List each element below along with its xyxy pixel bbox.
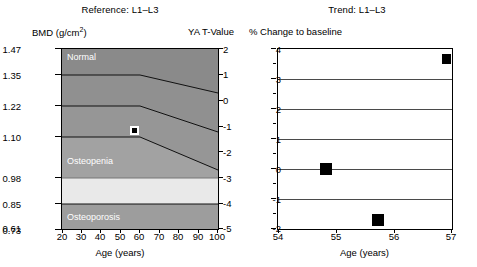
ytick-left-7: 0.61 bbox=[3, 223, 22, 234]
gridline-0 bbox=[278, 169, 452, 170]
trend-ytick-2: 2 bbox=[276, 104, 281, 115]
ytick-left-4: 0.98 bbox=[3, 173, 22, 184]
trend-ytick-4: 0 bbox=[276, 164, 281, 175]
trend-ytick-0: 4 bbox=[276, 44, 281, 55]
trend-y-axis-label: % Change to baseline bbox=[249, 26, 342, 37]
ytick-right-3: -1 bbox=[223, 121, 231, 132]
trend-ytick-3: 1 bbox=[276, 134, 281, 145]
trend-plot-area bbox=[277, 48, 453, 230]
ytick-right-1: 1 bbox=[223, 69, 228, 80]
trend-ytick-1: 3 bbox=[276, 74, 281, 85]
reference-data-point-marker bbox=[130, 126, 139, 135]
trend-data-point-2 bbox=[372, 214, 384, 226]
trend-chart-panel: Trend: L1–L3 % Change to baseline 4 3 2 … bbox=[237, 0, 477, 267]
xtick-7: 90 bbox=[193, 231, 204, 242]
zone-label-normal: Normal bbox=[67, 52, 96, 62]
trend-xtick-1: 55 bbox=[331, 231, 342, 242]
ytick-left-3: 1.10 bbox=[3, 132, 22, 143]
trend-data-point-3 bbox=[440, 52, 453, 66]
ytick-left-1: 1.35 bbox=[3, 70, 22, 81]
zone-label-osteopenia: Osteopenia bbox=[67, 156, 113, 166]
zone-label-osteoporosis: Osteoporosis bbox=[67, 212, 120, 222]
xtick-1: 30 bbox=[76, 231, 87, 242]
ytick-right-6: -4 bbox=[223, 198, 231, 209]
ytick-left-5: 0.85 bbox=[3, 199, 22, 210]
ytick-left-2: 1.22 bbox=[3, 101, 22, 112]
reference-y-axis-left-caption: BMD (g/cm2) bbox=[32, 26, 87, 38]
trend-xtick-2: 56 bbox=[389, 231, 400, 242]
gridline-2 bbox=[278, 109, 452, 110]
reference-chart-title: Reference: L1–L3 bbox=[0, 4, 240, 15]
ytick-right-4: -2 bbox=[223, 147, 231, 158]
bmd-unit-text: BMD (g/cm bbox=[32, 27, 80, 38]
xtick-4: 60 bbox=[134, 231, 145, 242]
xtick-3: 50 bbox=[115, 231, 126, 242]
ytick-right-0: 2 bbox=[223, 44, 228, 55]
bmd-unit-close-paren: ) bbox=[83, 27, 86, 38]
xtick-5: 70 bbox=[154, 231, 165, 242]
gridline-1 bbox=[278, 139, 452, 140]
gridline-minus1 bbox=[278, 199, 452, 200]
trend-data-point-1 bbox=[320, 163, 332, 175]
reference-chart-panel: Reference: L1–L3 BMD (g/cm2) YA T-Value bbox=[0, 0, 240, 267]
trend-xtick-3: 57 bbox=[446, 231, 457, 242]
ytick-right-2: 0 bbox=[223, 95, 228, 106]
xtick-0: 20 bbox=[57, 231, 68, 242]
xtick-2: 40 bbox=[95, 231, 106, 242]
ytick-right-5: -3 bbox=[223, 173, 231, 184]
xtick-6: 80 bbox=[173, 231, 184, 242]
xtick-8: 100 bbox=[209, 231, 225, 242]
reference-x-axis-label: Age (years) bbox=[30, 247, 210, 258]
trend-xtick-0: 54 bbox=[273, 231, 284, 242]
trend-chart-title: Trend: L1–L3 bbox=[237, 4, 477, 15]
trend-ytick-5: -1 bbox=[273, 194, 281, 205]
reference-y-axis-right-caption: YA T-Value bbox=[188, 26, 234, 37]
gridline-3 bbox=[278, 79, 452, 80]
trend-x-axis-label: Age (years) bbox=[257, 247, 472, 258]
ytick-left-0: 1.47 bbox=[3, 44, 22, 55]
reference-zone-bands bbox=[62, 49, 218, 229]
reference-plot-area: Normal Osteopenia Osteoporosis bbox=[61, 48, 219, 230]
